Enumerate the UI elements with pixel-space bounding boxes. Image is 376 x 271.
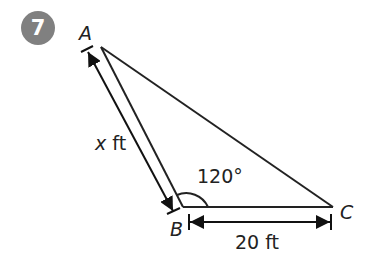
vertex-label-a: A (77, 22, 92, 44)
tick-a (81, 46, 93, 52)
dimension-ab (81, 46, 180, 214)
vertex-label-b: B (170, 218, 183, 240)
angle-label-b: 120° (197, 165, 243, 187)
side-ab-unit: ft (106, 132, 126, 154)
side-ab-label: x ft (94, 132, 126, 154)
side-ab (101, 47, 183, 207)
tick-b (167, 208, 180, 214)
triangle-diagram: 7 A B C 120° x ft 20 ft (0, 0, 376, 271)
problem-number-badge: 7 (21, 11, 55, 45)
vertex-label-c: C (340, 201, 354, 223)
problem-number: 7 (31, 16, 46, 40)
side-bc-label: 20 ft (235, 231, 279, 253)
side-ab-variable: x (94, 132, 107, 154)
dimension-bc (189, 214, 331, 230)
